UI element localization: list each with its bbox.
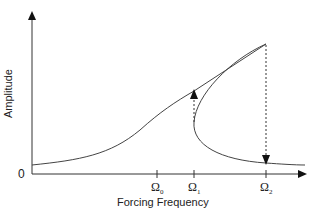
tick-label-omega2: Ω2: [260, 180, 272, 196]
tick-label-omega1: Ω1: [188, 180, 200, 196]
tick-label-omega0: Ω0: [151, 180, 163, 196]
lower-branch-curve: [194, 44, 305, 165]
origin-label: 0: [18, 167, 25, 181]
y-axis-arrow-icon: [28, 11, 36, 20]
jump-up-arrowhead-icon: [190, 89, 198, 99]
y-axis-label: Amplitude: [2, 69, 14, 118]
x-axis-label: Forcing Frequency: [117, 196, 209, 208]
upper-branch-curve: [32, 44, 266, 165]
x-axis-arrow-icon: [298, 170, 307, 178]
